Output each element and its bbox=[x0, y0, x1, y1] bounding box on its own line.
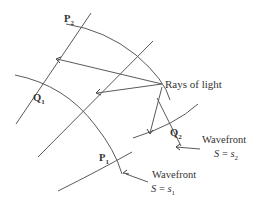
pointer-line-wavefront1 bbox=[126, 174, 148, 182]
point-label-p2: P2 bbox=[64, 14, 74, 27]
point-label-p1: P1 bbox=[99, 153, 109, 166]
point-label-q1: Q1 bbox=[33, 93, 45, 106]
wavefront-s2-title: Wavefront bbox=[202, 135, 246, 146]
pointer-line-1 bbox=[57, 59, 162, 84]
ray-line-2 bbox=[38, 41, 153, 157]
pointer-line-2 bbox=[97, 84, 162, 93]
wavefront-s1-equation: S = s1 bbox=[151, 184, 175, 197]
wavefront-s2-equation: S = s2 bbox=[214, 149, 238, 162]
rays-of-light-label: Rays of light bbox=[165, 79, 222, 90]
pointer-line-wavefront2 bbox=[176, 147, 200, 149]
wavefront-s2-arc-upper bbox=[66, 24, 170, 100]
wavefront-s1-title: Wavefront bbox=[152, 170, 196, 181]
wavefront-s2-curve bbox=[133, 104, 198, 138]
point-label-q2: Q2 bbox=[170, 128, 182, 141]
arrowhead-wavefront1-icon bbox=[123, 170, 129, 174]
pointer-line-3 bbox=[150, 87, 162, 133]
